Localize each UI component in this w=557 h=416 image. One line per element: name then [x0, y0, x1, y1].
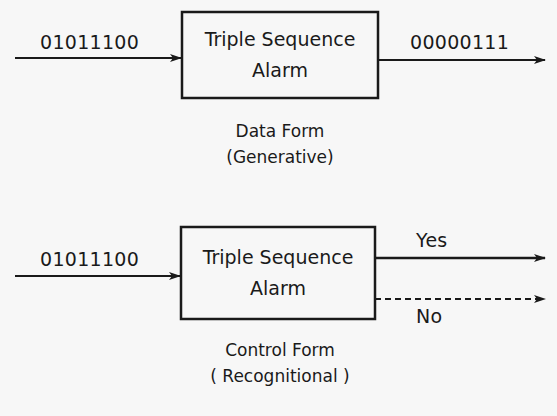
- control-box-line1: Triple Sequence: [181, 242, 375, 273]
- data-box-line2: Alarm: [182, 55, 378, 86]
- data-caption-line2: (Generative): [160, 144, 400, 170]
- data-output-label: 00000111: [410, 31, 509, 53]
- control-input-label: 01011100: [40, 248, 139, 270]
- control-caption-line1: Control Form: [160, 337, 400, 363]
- control-form-caption: Control Form ( Recognitional ): [160, 337, 400, 389]
- control-caption-line2: ( Recognitional ): [160, 363, 400, 389]
- data-form-caption: Data Form (Generative): [160, 118, 400, 170]
- data-box-line1: Triple Sequence: [182, 24, 378, 55]
- data-caption-line1: Data Form: [160, 118, 400, 144]
- no-label: No: [416, 305, 442, 327]
- data-input-label: 01011100: [40, 31, 139, 53]
- yes-label: Yes: [416, 229, 448, 251]
- control-box-line2: Alarm: [181, 273, 375, 304]
- control-form-box-label: Triple Sequence Alarm: [181, 242, 375, 304]
- data-form-box-label: Triple Sequence Alarm: [182, 24, 378, 86]
